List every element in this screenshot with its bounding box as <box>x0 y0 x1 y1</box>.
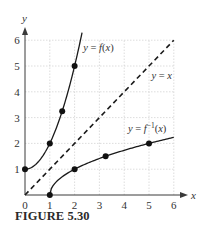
curve-label: y = f−1(x) <box>127 121 167 135</box>
curve-label: y = f(x) <box>82 42 114 54</box>
data-point <box>146 140 152 146</box>
curve-label: y = x <box>150 70 172 81</box>
function-inverse-chart: x y 0123456123456 y = f(x)y = xy = f−1(x… <box>0 0 204 234</box>
data-point <box>59 108 65 114</box>
y-axis-label: y <box>21 12 27 24</box>
y-tick-label: 4 <box>14 86 20 98</box>
data-point <box>47 140 53 146</box>
x-tick-label: 6 <box>171 199 177 211</box>
data-point <box>22 166 28 172</box>
x-axis-label: x <box>190 189 196 201</box>
data-point <box>47 192 53 198</box>
y-tick-label: 6 <box>14 34 20 46</box>
x-tick-label: 5 <box>146 199 152 211</box>
y-tick-label: 2 <box>14 137 20 149</box>
figure-caption: FIGURE 5.30 <box>15 209 90 224</box>
data-point <box>72 166 78 172</box>
x-tick-label: 3 <box>97 199 103 211</box>
y-axis-arrow-icon <box>22 27 28 35</box>
y-tick-label: 5 <box>14 60 20 72</box>
y-tick-label: 1 <box>14 163 20 175</box>
curve-f-inverse <box>50 137 174 195</box>
data-point <box>72 63 78 69</box>
x-axis-arrow-icon <box>180 192 188 198</box>
x-tick-label: 4 <box>121 199 127 211</box>
data-point <box>103 153 109 159</box>
y-tick-label: 3 <box>14 112 20 124</box>
curve-f <box>25 33 82 169</box>
